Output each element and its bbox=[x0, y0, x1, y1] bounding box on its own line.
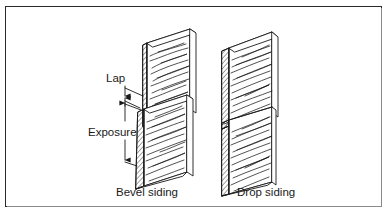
label-exposure: Exposure bbox=[88, 126, 137, 138]
figure-root: Lap Exposure Bevel siding Drop siding bbox=[0, 0, 391, 220]
drop-siding-lower-board bbox=[222, 107, 276, 196]
siding-diagram: Lap Exposure Bevel siding Drop siding bbox=[0, 0, 391, 220]
dimension-lap bbox=[125, 86, 143, 110]
bevel-siding-lower-board bbox=[136, 95, 193, 189]
caption-drop-siding: Drop siding bbox=[237, 186, 295, 198]
caption-bevel-siding: Bevel siding bbox=[116, 186, 178, 198]
label-lap: Lap bbox=[106, 72, 125, 84]
